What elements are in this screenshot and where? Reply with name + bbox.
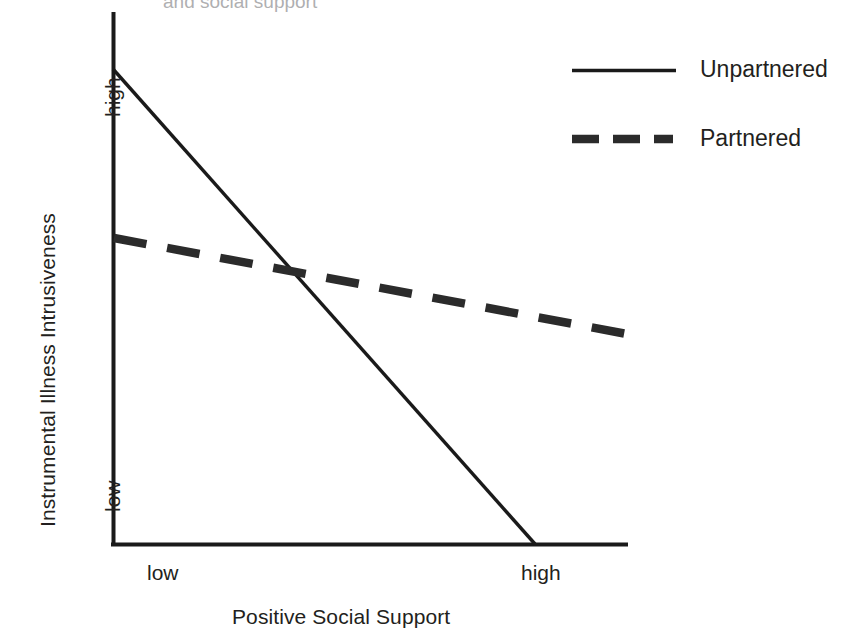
series-line-unpartnered [113,69,535,544]
legend-label-partnered: Partnered [700,127,801,150]
chart-figure: and social support Instrumental Illness … [0,0,864,638]
y-axis-tick-high: high [102,77,123,117]
x-axis-title: Positive Social Support [232,606,450,627]
series-line-partnered [114,238,627,334]
x-axis-tick-low: low [147,562,179,583]
chart-plot-area [0,0,864,638]
legend-label-unpartnered: Unpartnered [700,58,828,81]
caption-fragment: and social support [163,0,317,11]
x-axis-tick-high: high [521,562,561,583]
y-axis-tick-low: low [102,480,123,512]
y-axis-title: Instrumental Illness Intrusiveness [37,213,58,527]
